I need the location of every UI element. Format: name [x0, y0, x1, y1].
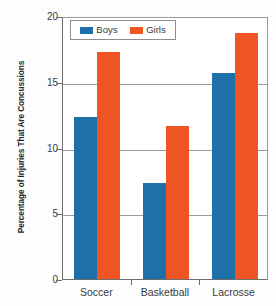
girls-color-swatch	[130, 27, 143, 34]
x-axis-tick-mark	[131, 280, 132, 285]
boys-color-swatch	[80, 27, 93, 34]
bar-basketball-girls	[166, 126, 189, 279]
y-axis-title: Percentage of Injuries That Are Concussi…	[16, 32, 26, 262]
bar-chart: Percentage of Injuries That Are Concussi…	[0, 0, 276, 306]
legend-entry-girls: Girls	[130, 25, 166, 35]
bar-lacrosse-boys	[212, 73, 235, 279]
y-axis-tick-label: 0	[30, 275, 58, 285]
bar-soccer-girls	[97, 52, 120, 279]
x-axis-label-soccer: Soccer	[62, 286, 131, 298]
legend-label: Boys	[96, 25, 117, 35]
bar-lacrosse-girls	[235, 33, 258, 279]
y-axis-tick-mark	[56, 280, 62, 281]
y-axis-tick-label: 15	[30, 78, 58, 88]
y-axis-tick-label: 10	[30, 144, 58, 154]
plot-area	[62, 17, 268, 280]
y-axis-tick-label: 20	[30, 12, 58, 22]
x-axis-tick-mark	[199, 280, 200, 285]
y-axis-tick-label: 5	[30, 209, 58, 219]
bar-soccer-boys	[74, 117, 97, 279]
x-axis-label-lacrosse: Lacrosse	[199, 286, 268, 298]
chart-legend: BoysGirls	[70, 20, 176, 40]
legend-entry-boys: Boys	[80, 25, 117, 35]
x-axis-label-basketball: Basketball	[131, 286, 200, 298]
legend-label: Girls	[146, 25, 166, 35]
bar-basketball-boys	[143, 183, 166, 279]
